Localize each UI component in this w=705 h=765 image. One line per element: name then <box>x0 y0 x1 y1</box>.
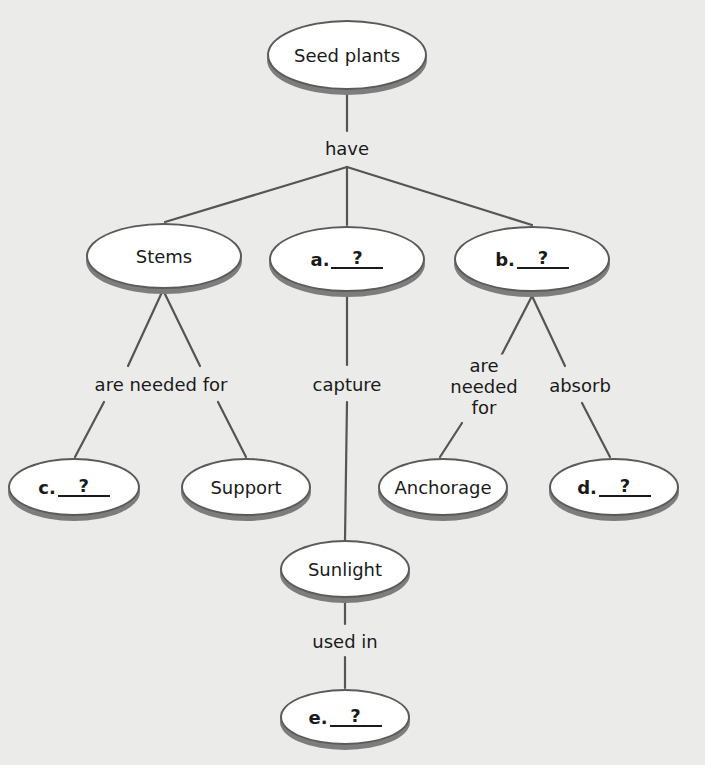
link-label-absorb: absorb <box>546 375 614 396</box>
node-label: Seed plants <box>294 45 400 66</box>
node-anchorage: Anchorage <box>378 458 508 516</box>
link-label-used-in: used in <box>309 631 380 652</box>
node-e-blank: e. ? <box>280 689 410 745</box>
node-label: Sunlight <box>308 559 382 580</box>
link-label-line: for <box>450 397 517 418</box>
node-c-blank: c. ? <box>8 458 140 516</box>
link-label-have: have <box>322 138 372 159</box>
node-b-blank: b. ? <box>454 226 610 292</box>
blank-answer: ? <box>330 707 382 727</box>
link-label-b-needed-for: are needed for <box>447 355 520 418</box>
node-label: Anchorage <box>395 477 492 498</box>
node-seed-plants: Seed plants <box>267 20 427 90</box>
node-label: Stems <box>136 246 192 267</box>
blank-prefix: c. <box>38 477 56 498</box>
blank-prefix: d. <box>577 477 597 498</box>
concept-map: Seed plants have Stems a. ? b. ? are nee… <box>0 0 705 765</box>
link-label-line: are <box>450 355 517 376</box>
blank-answer: ? <box>331 249 383 269</box>
blank-answer: ? <box>517 249 569 269</box>
blank-prefix: b. <box>495 249 515 270</box>
blank-prefix: a. <box>311 249 330 270</box>
node-stems: Stems <box>86 223 242 289</box>
node-label: Support <box>210 477 281 498</box>
node-d-blank: d. ? <box>549 458 679 516</box>
node-a-blank: a. ? <box>269 226 425 292</box>
link-label-capture: capture <box>310 374 385 395</box>
link-label-line: needed <box>450 376 517 397</box>
link-label-stems-needed-for: are needed for <box>92 374 231 395</box>
node-sunlight: Sunlight <box>280 540 410 598</box>
blank-answer: ? <box>58 477 110 497</box>
blank-answer: ? <box>599 477 651 497</box>
blank-prefix: e. <box>308 707 327 728</box>
node-support: Support <box>181 458 311 516</box>
